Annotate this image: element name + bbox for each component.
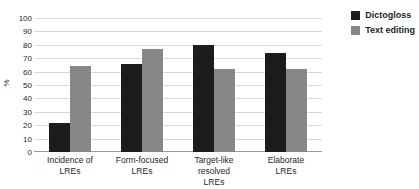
bar-chart: % 1009080706050403020100 Incidence ofLRE… [0,0,419,189]
x-axis-category-label: Incidence ofLREs [34,155,106,188]
bar[interactable] [265,53,286,152]
y-axis-tick-label: 70 [6,54,32,63]
category-label-line: LREs [250,166,322,177]
bar[interactable] [49,123,70,152]
y-axis-tick-label: 10 [6,134,32,143]
legend-item[interactable]: Text editing [351,25,415,35]
y-axis-tick-labels: 1009080706050403020100 [6,13,32,152]
y-axis-tick-label: 30 [6,107,32,116]
category-label-line: Incidence of [34,155,106,166]
y-axis-tick-label: 100 [6,14,32,23]
category-label-line: LREs [106,166,178,177]
category-label-line: Elaborate [250,155,322,166]
y-axis-tick-label: 0 [6,148,32,157]
x-axis-category-labels: Incidence ofLREsForm-focusedLREsTarget-l… [34,155,322,188]
bar-group [34,18,106,152]
bar[interactable] [214,69,235,152]
y-axis-tick-label: 40 [6,94,32,103]
x-axis-category-label: ElaborateLREs [250,155,322,188]
bar-groups [34,18,322,152]
y-axis-tick-label: 90 [6,27,32,36]
legend-swatch-icon [351,11,360,20]
x-axis-category-label: Target-like resolvedLREs [178,155,250,188]
category-label-line: LREs [178,177,250,188]
x-axis-category-label: Form-focusedLREs [106,155,178,188]
category-label-line: LREs [34,166,106,177]
legend-label: Text editing [365,25,415,35]
legend-label: Dictogloss [365,10,411,20]
bar-group [178,18,250,152]
bar[interactable] [70,66,91,152]
y-axis-tick-label: 20 [6,121,32,130]
y-axis-tick-label: 60 [6,67,32,76]
y-axis-tick-label: 80 [6,40,32,49]
legend: DictoglossText editing [351,10,415,35]
bar[interactable] [286,69,307,152]
bar-group [250,18,322,152]
bar[interactable] [193,45,214,152]
legend-swatch-icon [351,26,360,35]
bar[interactable] [121,64,142,152]
y-axis-tick-label: 50 [6,81,32,90]
bar-group [106,18,178,152]
legend-item[interactable]: Dictogloss [351,10,415,20]
category-label-line: Target-like resolved [178,155,250,177]
plot-area [34,18,322,152]
category-label-line: Form-focused [106,155,178,166]
bar[interactable] [142,49,163,152]
